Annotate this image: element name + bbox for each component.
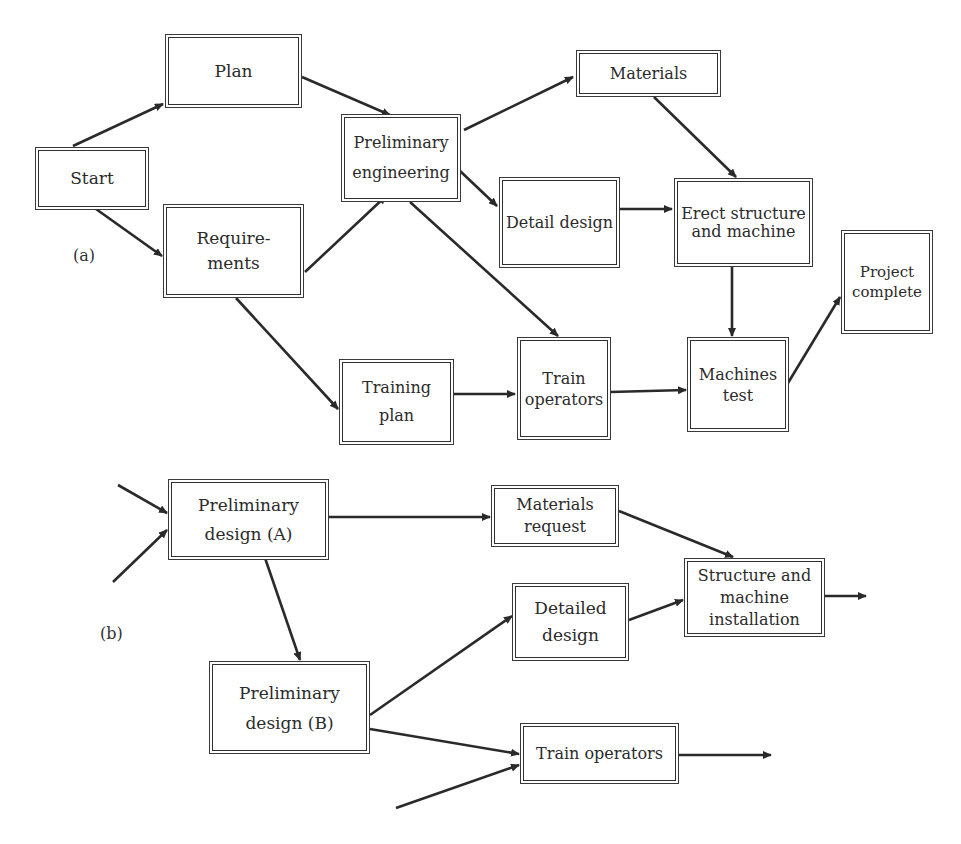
node-plan-label: Plan [215, 61, 253, 82]
node-preliminary-engineering-label: Preliminary engineering [352, 128, 450, 188]
node-training-plan[interactable]: Training plan [339, 359, 454, 445]
node-machines-test-label: Machines test [699, 364, 777, 406]
node-train-operators[interactable]: Train operators [517, 337, 611, 440]
node-preliminary-design-b-label: Preliminary design (B) [239, 678, 340, 738]
node-train-operators-b[interactable]: Train operators [520, 723, 679, 784]
node-preliminary-engineering[interactable]: Preliminary engineering [341, 114, 461, 202]
node-materials[interactable]: Materials [576, 50, 721, 97]
node-requirements[interactable]: Require- ments [163, 204, 304, 298]
node-structure-installation-label: Structure and machine installation [698, 565, 811, 631]
diagram-a-label: (a) [73, 246, 95, 265]
node-erect-structure[interactable]: Erect structure and machine [674, 178, 813, 267]
node-train-operators-b-label: Train operators [536, 743, 663, 764]
node-requirements-label: Require- ments [196, 226, 270, 276]
node-start[interactable]: Start [35, 147, 149, 210]
node-project-complete[interactable]: Project complete [841, 230, 933, 334]
node-detail-design[interactable]: Detail design [499, 177, 620, 268]
node-project-complete-label: Project complete [852, 262, 922, 302]
edges-layer [0, 0, 961, 844]
network-diagram: (a) Start Plan Require- ments Preliminar… [0, 0, 961, 844]
node-train-operators-label: Train operators [525, 368, 603, 410]
node-erect-structure-label: Erect structure and machine [681, 205, 806, 241]
node-detailed-design[interactable]: Detailed design [512, 583, 629, 661]
node-training-plan-label: Training plan [362, 374, 431, 430]
node-machines-test[interactable]: Machines test [687, 337, 789, 432]
node-preliminary-design-a-label: Preliminary design (A) [198, 491, 299, 549]
node-detailed-design-label: Detailed design [534, 595, 606, 649]
node-detail-design-label: Detail design [506, 212, 613, 233]
node-materials-request-label: Materials request [516, 494, 593, 538]
diagram-b-label: (b) [100, 624, 123, 643]
node-plan[interactable]: Plan [165, 34, 302, 108]
node-materials-request[interactable]: Materials request [491, 485, 619, 547]
node-preliminary-design-b[interactable]: Preliminary design (B) [209, 661, 370, 754]
node-materials-label: Materials [610, 63, 687, 84]
node-structure-installation[interactable]: Structure and machine installation [684, 558, 825, 637]
node-start-label: Start [70, 168, 114, 189]
node-preliminary-design-a[interactable]: Preliminary design (A) [168, 479, 329, 560]
